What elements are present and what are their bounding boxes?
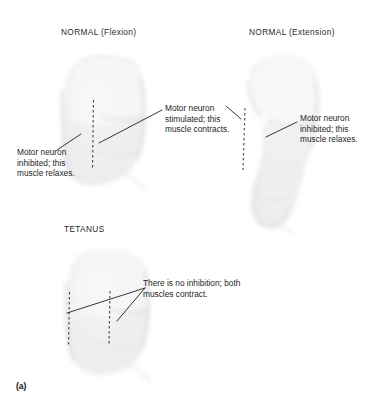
panel-title-normal-flexion: NORMAL (Flexion): [61, 27, 136, 37]
muscle-dashed-lines: [69, 100, 246, 345]
panel-title-tetanus: TETANUS: [64, 224, 105, 234]
tetanus-arm-illustration: [66, 249, 150, 382]
callout-flexion-motor-neuron-inhibited: Motor neuron inhibited; this muscle rela…: [17, 147, 87, 179]
dashed-line-tetanus-left: [69, 292, 70, 345]
anatomy-figure: NORMAL (Flexion) NORMAL (Extension) TETA…: [0, 0, 381, 404]
leader-tetanus-left: [67, 288, 145, 313]
leader-extension-inhibited: [266, 122, 297, 137]
figure-caption-label: (a): [16, 381, 26, 391]
panel-title-normal-extension: NORMAL (Extension): [249, 27, 335, 37]
leader-flexion-stimulated: [99, 110, 162, 143]
dashed-line-flexion-biceps: [93, 100, 94, 170]
dashed-line-extension-triceps: [243, 108, 245, 170]
callout-tetanus-no-inhibition: There is no inhibition; both muscles con…: [143, 278, 263, 299]
leader-tetanus-right: [117, 288, 145, 321]
illustration-layer: [0, 0, 381, 404]
callout-flexion-motor-neuron-stimulated: Motor neuron stimulated; this muscle con…: [165, 103, 243, 135]
dashed-line-tetanus-right: [109, 291, 110, 345]
callout-extension-motor-neuron-inhibited: Motor neuron inhibited; this muscle rela…: [300, 113, 376, 145]
